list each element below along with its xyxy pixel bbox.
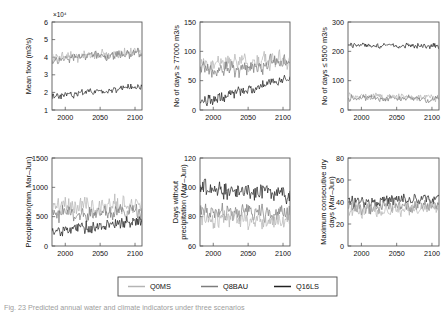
y-tick-label: 80	[336, 154, 344, 163]
x-tick-label: 2050	[389, 113, 405, 122]
y-tick-label: 1500	[32, 154, 48, 163]
x-tick-label: 2100	[275, 249, 291, 258]
x-tick-label: 2000	[353, 113, 369, 122]
x-tick-label: 2100	[424, 113, 440, 122]
panel-days-above-77000: 050100150200020502100No of days ≥ 77000 …	[148, 4, 296, 132]
x-tick-label: 2050	[240, 249, 256, 258]
y-tick-label: 150	[184, 18, 196, 27]
x-tick-label: 2050	[92, 113, 108, 122]
y-tick-label: 3	[44, 70, 48, 79]
y-tick-label: 0	[44, 242, 48, 251]
panel-max-consecutive-dry-days: 020406080200020502100Maximum consecutive…	[296, 140, 445, 268]
x-tick-label: 2000	[57, 249, 73, 258]
trace-group	[348, 43, 439, 103]
y-axis-title: No of days ≤ 5500 m3/s	[320, 27, 329, 105]
data-trace-q0ms	[52, 48, 142, 63]
x-tick-label: 2050	[92, 249, 108, 258]
y-tick-label: 1	[44, 106, 48, 115]
legend-label-q8bau[interactable]: Q8BAU	[223, 282, 248, 291]
x-tick-label: 2000	[57, 113, 73, 122]
y-tick-label: 6	[44, 18, 48, 27]
x-tick-label: 2100	[424, 249, 440, 258]
y-tick-label: 80	[188, 212, 196, 221]
panel-precipitation: 050010001500200020502100Precipitation(mm…	[0, 140, 148, 268]
y-tick-label: 60	[188, 242, 196, 251]
y-tick-label: 50	[188, 76, 196, 85]
y-tick-label: 20	[336, 220, 344, 229]
trace-group	[200, 179, 290, 230]
data-trace-q16ls	[52, 84, 142, 99]
y-tick-label: 2	[44, 88, 48, 97]
panel-mean-flow: 123456200020502100×10⁴Mean flow (m3/s)	[0, 4, 148, 132]
plot-frame	[52, 22, 142, 110]
y-axis-title: Mean flow (m3/s)	[24, 38, 33, 95]
y-tick-label: 4	[44, 53, 48, 62]
y-tick-label: 5	[44, 35, 48, 44]
figure-caption: Fig. 23 Predicted annual water and clima…	[4, 303, 441, 312]
y-tick-label: 300	[332, 18, 344, 27]
x-tick-label: 2100	[275, 113, 291, 122]
figure-panel-grid: 123456200020502100×10⁴Mean flow (m3/s) 0…	[0, 0, 445, 317]
y-tick-label: 100	[184, 47, 196, 56]
data-trace-q16ls	[52, 216, 142, 236]
y-tick-label: 60	[336, 176, 344, 185]
trace-group	[200, 50, 290, 106]
y-tick-label: 200	[332, 47, 344, 56]
y-axis-title: days (Mar–Jun)	[327, 176, 336, 227]
x-tick-label: 2100	[127, 113, 143, 122]
y-axis-title: precipitation (Mar–Jun)	[179, 164, 188, 240]
y-tick-label: 500	[36, 212, 48, 221]
y-tick-label: 0	[192, 106, 196, 115]
figure-legend: Q0MSQ8BAUQ16LS	[110, 272, 345, 300]
y-axis-title: Precipitation(mm, Mar–Jun)	[24, 157, 33, 248]
x-tick-label: 2000	[205, 249, 221, 258]
y-tick-label: 1000	[32, 183, 48, 192]
legend-label-q16ls[interactable]: Q16LS	[296, 282, 319, 291]
trace-group	[348, 194, 439, 219]
x-tick-label: 2100	[127, 249, 143, 258]
y-axis-title: No of days ≥ 77000 m3/s	[172, 25, 181, 107]
y-tick-label: 40	[336, 198, 344, 207]
y-tick-label: 120	[184, 154, 196, 163]
x-tick-label: 2000	[205, 113, 221, 122]
plot-frame	[200, 158, 290, 246]
y-tick-label: 0	[340, 242, 344, 251]
panel-days-without-precipitation: 6080100120200020502100Days withoutprecip…	[148, 140, 296, 268]
x-tick-label: 2000	[353, 249, 369, 258]
data-trace-q16ls	[348, 43, 439, 49]
x-tick-label: 2050	[389, 249, 405, 258]
data-trace-q16ls	[200, 179, 290, 204]
trace-group	[52, 194, 142, 236]
y-tick-label: 0	[340, 106, 344, 115]
data-trace-q16ls	[200, 75, 290, 106]
x-tick-label: 2050	[240, 113, 256, 122]
panel-days-below-5500: 0100200300200020502100No of days ≤ 5500 …	[296, 4, 445, 132]
y-tick-label: 100	[332, 76, 344, 85]
trace-group	[52, 48, 142, 99]
y-axis-exponent-label: ×10⁴	[53, 11, 67, 18]
legend-label-q0ms[interactable]: Q0MS	[150, 282, 171, 291]
